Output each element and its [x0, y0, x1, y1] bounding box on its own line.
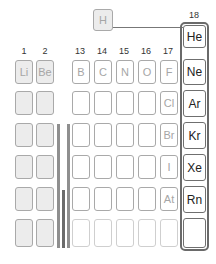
group2-cell	[36, 187, 54, 211]
p-block-cell	[72, 155, 90, 179]
element-xe: Xe	[183, 154, 206, 181]
group2-cell	[36, 155, 54, 179]
group-number-2: 2	[35, 46, 55, 56]
group1-cell	[15, 187, 33, 211]
element-symbol: Kr	[189, 129, 201, 143]
p-block-cell	[116, 123, 134, 147]
p-block-cell	[116, 155, 134, 179]
p-block-cell	[94, 219, 112, 247]
element-be: Be	[36, 60, 54, 84]
p-block-cell	[138, 91, 156, 115]
p-block-cell	[72, 187, 90, 211]
element-symbol: Cl	[164, 97, 174, 109]
group1-cell	[15, 155, 33, 179]
element-symbol: B	[77, 66, 84, 78]
element-symbol: He	[187, 30, 202, 44]
group2-cell	[36, 123, 54, 147]
element-f: F	[160, 60, 178, 84]
transition-block-bar	[67, 124, 70, 248]
p-block-cell	[116, 187, 134, 211]
p-block-cell	[160, 219, 178, 247]
group2-cell	[36, 91, 54, 115]
lanthanide-bar	[62, 190, 65, 248]
element-symbol: Ne	[187, 65, 202, 79]
p-block-cell	[138, 155, 156, 179]
element-symbol: N	[121, 66, 129, 78]
group-number-13: 13	[70, 46, 90, 56]
p-block-cell	[94, 123, 112, 147]
element-i: I	[160, 155, 178, 179]
element-symbol: Li	[20, 66, 29, 78]
group1-cell	[15, 219, 33, 247]
element-o: O	[138, 60, 156, 84]
element-n: N	[116, 60, 134, 84]
element-ne: Ne	[183, 59, 206, 85]
element-li: Li	[15, 60, 33, 84]
element-rn: Rn	[183, 186, 206, 213]
group2-cell	[36, 219, 54, 247]
element-symbol: At	[164, 193, 174, 205]
group1-cell	[15, 123, 33, 147]
transition-block-bar	[57, 124, 60, 248]
element-b: B	[72, 60, 90, 84]
element-cl: Cl	[160, 91, 178, 115]
group-number-1: 1	[14, 46, 34, 56]
p-block-cell	[72, 219, 90, 247]
group-number-14: 14	[92, 46, 112, 56]
group-number-16: 16	[136, 46, 156, 56]
element-og	[183, 218, 206, 248]
group-number-15: 15	[114, 46, 134, 56]
p-block-cell	[94, 187, 112, 211]
p-block-cell	[116, 219, 134, 247]
p-block-cell	[138, 187, 156, 211]
element-kr: Kr	[183, 122, 206, 149]
element-symbol: I	[167, 161, 170, 173]
element-symbol: Xe	[187, 161, 202, 175]
element-br: Br	[160, 123, 178, 147]
p-block-cell	[72, 91, 90, 115]
group-number-17: 17	[158, 46, 178, 56]
element-symbol: C	[99, 66, 107, 78]
element-at: At	[160, 187, 178, 211]
hydrogen-connector-line	[113, 27, 183, 28]
element-symbol: Rn	[187, 193, 202, 207]
element-ar: Ar	[183, 90, 206, 117]
element-symbol: F	[166, 66, 173, 78]
p-block-cell	[116, 91, 134, 115]
element-symbol: Ar	[189, 97, 201, 111]
element-symbol: Br	[164, 129, 175, 141]
element-c: C	[94, 60, 112, 84]
p-block-cell	[138, 219, 156, 247]
group-number-18: 18	[184, 10, 204, 20]
element-h: H	[93, 9, 113, 31]
group1-cell	[15, 91, 33, 115]
element-symbol: O	[143, 66, 152, 78]
p-block-cell	[138, 123, 156, 147]
p-block-cell	[94, 155, 112, 179]
element-symbol: Be	[38, 66, 51, 78]
p-block-cell	[72, 123, 90, 147]
element-he: He	[183, 25, 206, 48]
p-block-cell	[94, 91, 112, 115]
element-symbol: H	[99, 14, 107, 26]
